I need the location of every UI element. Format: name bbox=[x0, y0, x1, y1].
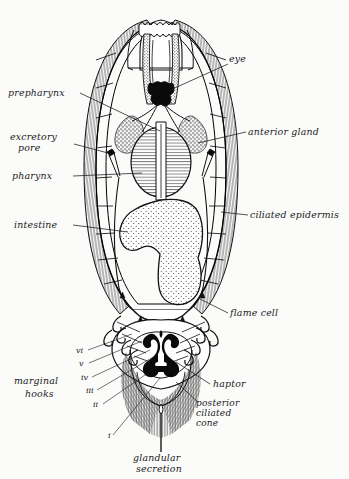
label-posterior-cone-line2: ciliated bbox=[196, 408, 231, 418]
label-posterior-cone-line3: cone bbox=[196, 418, 218, 428]
label-pharynx: pharynx bbox=[12, 170, 53, 181]
label-posterior-cone-line1: posterior bbox=[196, 398, 240, 408]
eye-pigment-mass bbox=[148, 82, 174, 106]
anatomical-figure: eye prepharynx anterior gland excretory … bbox=[0, 0, 349, 479]
label-prepharynx: prepharynx bbox=[8, 87, 65, 98]
hook-numeral-iv: iv bbox=[81, 373, 89, 382]
label-marginal-hooks-line2: hooks bbox=[25, 388, 54, 399]
label-glandular-secretion-line2: secretion bbox=[136, 463, 182, 474]
hook-numeral-vi: vi bbox=[76, 346, 84, 355]
label-anterior-gland: anterior gland bbox=[248, 126, 319, 137]
label-ciliated-epidermis: ciliated epidermis bbox=[250, 209, 339, 220]
label-intestine: intestine bbox=[14, 219, 58, 230]
hook-numeral-iii: iii bbox=[86, 386, 94, 395]
label-flame-cell: flame cell bbox=[229, 307, 278, 318]
label-haptor: haptor bbox=[213, 378, 246, 389]
label-excretory-pore-line1: excretory bbox=[10, 131, 58, 142]
label-glandular-secretion-line1: glandular bbox=[133, 452, 181, 463]
hook-numeral-i: i bbox=[108, 431, 111, 440]
label-eye: eye bbox=[229, 53, 246, 64]
hook-numeral-v: v bbox=[79, 359, 84, 368]
hook-numeral-ii: ii bbox=[93, 400, 99, 409]
label-excretory-pore-line2: pore bbox=[18, 142, 41, 153]
label-marginal-hooks-line1: marginal bbox=[14, 375, 58, 386]
